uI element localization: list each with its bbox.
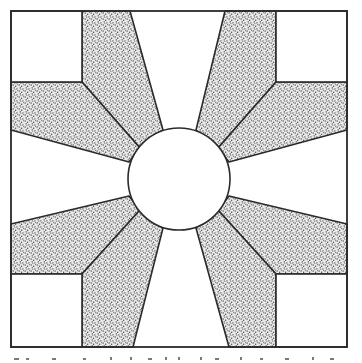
center-circle — [128, 128, 230, 230]
corner-square-top-right — [276, 11, 347, 82]
corner-square-top-left — [11, 11, 82, 82]
quilt-block-diagram — [0, 0, 362, 363]
corner-square-bottom-right — [276, 274, 347, 347]
figure-caption-partial — [10, 357, 352, 363]
corner-square-bottom-left — [11, 274, 82, 347]
